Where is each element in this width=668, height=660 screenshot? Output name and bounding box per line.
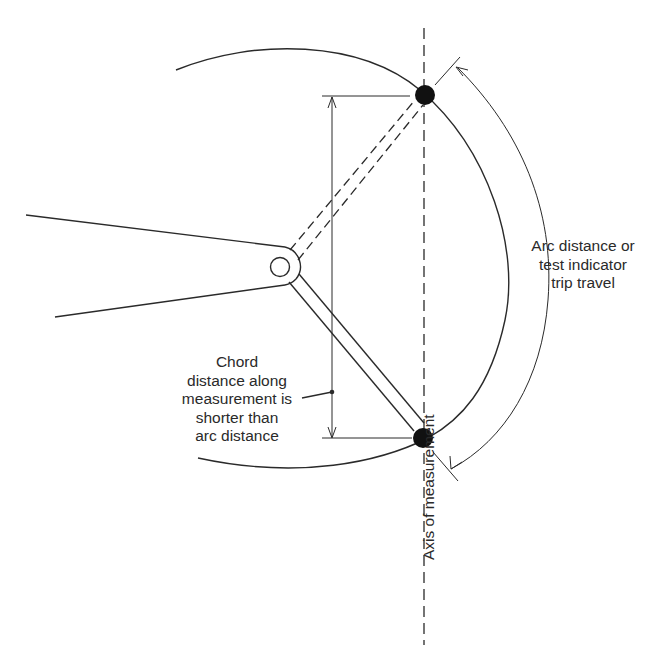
dashed-upper-arm-position — [290, 100, 423, 260]
chord-distance-label: Chord distance along measurement is shor… — [162, 353, 312, 446]
chord-label-line-4: shorter than — [162, 409, 312, 428]
chord-label-line-1: Chord — [162, 353, 312, 372]
chord-label-line-2: distance along — [162, 372, 312, 391]
arc-label-line-2: test indicator — [508, 256, 658, 275]
arc-distance-label: Arc distance or test indicator trip trav… — [508, 237, 658, 293]
chord-leader-dot — [330, 390, 335, 395]
top-contact-point — [415, 85, 435, 105]
indicator-body — [26, 215, 300, 317]
arc-label-line-1: Arc distance or — [508, 237, 658, 256]
chord-dimension — [302, 96, 412, 438]
arc-label-line-3: trip travel — [508, 274, 658, 293]
chord-label-line-3: measurement is — [162, 390, 312, 409]
pivot-hole — [271, 258, 290, 277]
axis-of-measurement-label: Axis of measurement — [420, 414, 439, 560]
chord-label-line-5: arc distance — [162, 427, 312, 446]
test-indicator-arc-diagram — [0, 0, 668, 660]
